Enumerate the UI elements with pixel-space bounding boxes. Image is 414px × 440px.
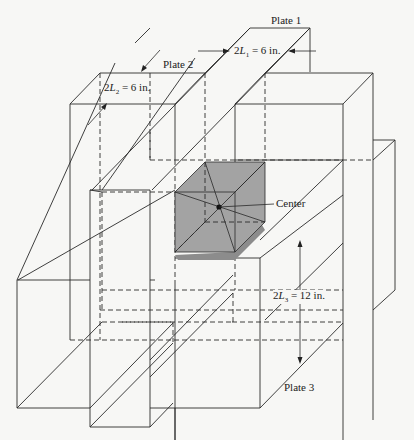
plate-2-label: Plate 2 bbox=[163, 59, 193, 70]
plate-1-hidden bbox=[150, 73, 373, 160]
dim2-value: = 6 in. bbox=[119, 81, 150, 93]
dimension-l3-label: 2L3 = 12 in. bbox=[273, 290, 325, 304]
dimension-l2-label: 2L2 = 6 in. bbox=[104, 82, 150, 96]
center-cube bbox=[175, 162, 274, 260]
dimension-l1-label: 2L1 = 6 in. bbox=[234, 45, 280, 59]
plate-1-label: Plate 1 bbox=[271, 15, 301, 26]
center-label: Center bbox=[276, 198, 305, 209]
plate-3-label: Plate 3 bbox=[284, 382, 314, 393]
dim1-value: = 6 in. bbox=[249, 44, 280, 56]
dim3-value: = 12 in. bbox=[288, 289, 325, 301]
plates-diagram bbox=[0, 0, 414, 440]
